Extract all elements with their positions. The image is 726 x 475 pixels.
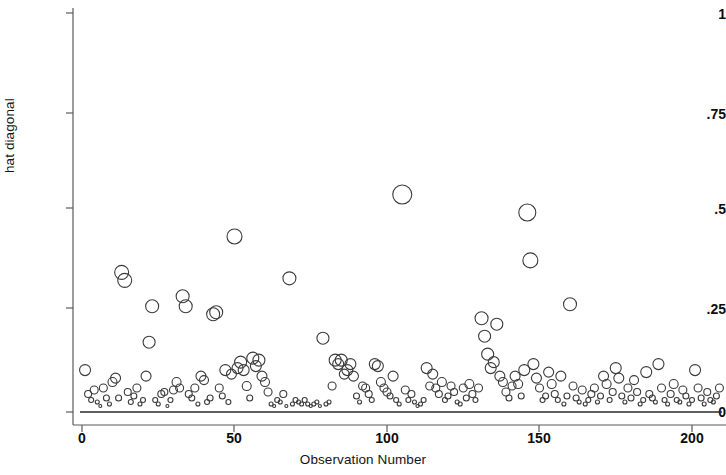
bubble-marker bbox=[394, 398, 399, 403]
bubble-marker bbox=[666, 402, 670, 406]
bubble-marker bbox=[210, 306, 223, 319]
bubble-marker bbox=[506, 395, 512, 401]
bubble-marker bbox=[555, 398, 560, 403]
bubble-marker bbox=[285, 405, 288, 408]
bubble-marker bbox=[479, 330, 491, 342]
bubble-marker bbox=[578, 386, 586, 394]
bubble-marker bbox=[146, 300, 159, 313]
bubble-marker bbox=[609, 389, 616, 396]
bubble-marker bbox=[90, 386, 98, 394]
bubble-marker bbox=[318, 405, 321, 408]
bubble-markers bbox=[80, 185, 724, 407]
bubble-marker bbox=[619, 393, 625, 399]
bubble-marker bbox=[475, 384, 483, 392]
bubble-marker bbox=[89, 398, 94, 403]
bubble-marker bbox=[327, 400, 331, 404]
bubble-marker bbox=[215, 384, 223, 392]
bubble-marker bbox=[107, 402, 111, 406]
bubble-marker bbox=[280, 391, 287, 398]
bubble-marker bbox=[614, 373, 624, 383]
bubble-marker bbox=[653, 359, 664, 370]
bubble-marker bbox=[694, 384, 702, 392]
bubble-marker bbox=[518, 393, 524, 399]
bubble-marker bbox=[283, 272, 296, 285]
bubble-marker bbox=[348, 371, 358, 381]
bubble-marker bbox=[595, 400, 599, 404]
bubble-marker bbox=[687, 402, 691, 406]
bubble-marker bbox=[463, 395, 469, 401]
bubble-marker bbox=[290, 402, 294, 406]
bubble-marker bbox=[451, 389, 458, 396]
bubble-marker bbox=[435, 391, 442, 398]
bubble-marker bbox=[131, 393, 137, 399]
bubble-marker bbox=[473, 398, 478, 403]
bubble-marker bbox=[372, 361, 383, 372]
bubble-marker bbox=[641, 398, 646, 403]
bubble-marker bbox=[300, 402, 304, 406]
bubble-marker bbox=[551, 391, 558, 398]
bubble-marker bbox=[99, 384, 107, 392]
bubble-marker bbox=[419, 402, 423, 406]
bubble-marker bbox=[235, 356, 247, 368]
bubble-marker bbox=[226, 369, 236, 379]
bubble-marker bbox=[458, 402, 462, 406]
bubble-marker bbox=[156, 402, 160, 406]
bubble-marker bbox=[662, 398, 667, 403]
bubble-marker bbox=[564, 298, 577, 311]
bubble-chart-leverage-plot: hat diagonal 1 .75 .5 .25 0 0 50 100 150… bbox=[0, 0, 726, 475]
bubble-marker bbox=[547, 380, 556, 389]
bubble-marker bbox=[465, 380, 474, 389]
bubble-marker bbox=[683, 393, 689, 399]
bubble-marker bbox=[556, 371, 566, 381]
bubble-marker bbox=[166, 405, 169, 408]
bubble-marker bbox=[99, 405, 102, 408]
bubble-marker bbox=[168, 398, 173, 403]
bubble-marker bbox=[586, 398, 591, 403]
bubble-marker bbox=[658, 384, 666, 392]
bubble-marker bbox=[528, 359, 539, 370]
bubble-marker bbox=[143, 336, 155, 348]
bubble-marker bbox=[702, 402, 706, 406]
bubble-marker bbox=[562, 402, 566, 406]
bubble-marker bbox=[328, 382, 336, 390]
bubble-marker bbox=[421, 398, 426, 403]
bubble-marker bbox=[482, 348, 494, 360]
bubble-marker bbox=[388, 371, 398, 381]
bubble-marker bbox=[138, 402, 142, 406]
bubble-marker bbox=[124, 389, 131, 396]
bubble-marker bbox=[421, 363, 432, 374]
bubble-marker bbox=[354, 393, 360, 399]
bubble-marker bbox=[634, 389, 641, 396]
bubble-marker bbox=[519, 204, 536, 221]
bubble-marker bbox=[428, 369, 438, 379]
bubble-marker bbox=[242, 382, 251, 391]
bubble-marker bbox=[690, 398, 695, 403]
bubble-marker bbox=[358, 400, 362, 404]
axis-lines bbox=[66, 8, 726, 432]
bubble-marker bbox=[412, 400, 416, 404]
bubble-marker bbox=[257, 371, 267, 381]
bubble-marker bbox=[369, 398, 374, 403]
bubble-marker bbox=[80, 365, 91, 376]
bubble-marker bbox=[690, 365, 701, 376]
bubble-marker bbox=[219, 393, 225, 399]
bubble-marker bbox=[577, 400, 581, 404]
bubble-marker bbox=[531, 373, 541, 383]
bubble-marker bbox=[667, 391, 674, 398]
bubble-marker bbox=[459, 384, 467, 392]
bubble-marker bbox=[227, 229, 242, 244]
bubble-marker bbox=[508, 382, 516, 390]
bubble-marker bbox=[116, 395, 122, 401]
bubble-marker bbox=[317, 332, 329, 344]
plot-canvas bbox=[0, 0, 726, 475]
bubble-marker bbox=[273, 405, 276, 408]
bubble-marker bbox=[397, 402, 401, 406]
bubble-marker bbox=[141, 371, 151, 381]
bubble-marker bbox=[406, 398, 411, 403]
bubble-marker bbox=[498, 378, 507, 387]
bubble-marker bbox=[196, 402, 200, 406]
bubble-marker bbox=[653, 400, 657, 404]
bubble-marker bbox=[607, 398, 612, 403]
bubble-marker bbox=[302, 398, 307, 403]
bubble-marker bbox=[523, 253, 538, 268]
